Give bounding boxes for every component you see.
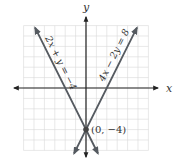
intersection-point: [83, 127, 89, 133]
coordinate-graph: x y 2x + y = −4 4x − 2y = 8 (0, −4): [0, 0, 180, 164]
x-axis-label: x: [166, 82, 173, 95]
intersection-label: (0, −4): [91, 124, 126, 135]
y-axis-label: y: [82, 1, 90, 14]
line1-label: 2x + y = −4: [43, 33, 80, 91]
